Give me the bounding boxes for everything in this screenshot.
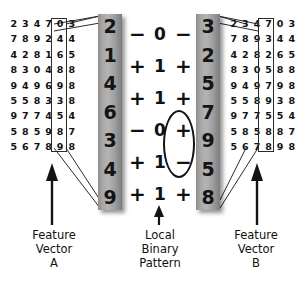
pixel-a-cell: 7	[20, 111, 32, 121]
pixel-b-cell: 0	[274, 19, 286, 29]
pixel-a-row: 977454	[8, 108, 89, 123]
pixel-b-cell: 8	[228, 65, 240, 75]
pixel-a-cell: 4	[31, 19, 43, 29]
pixel-a-cell: 3	[20, 65, 32, 75]
feature-vector-a-value: 6	[103, 103, 116, 122]
pixel-b-cell: 8	[286, 81, 298, 91]
caption-local-binary-pattern: Local Binary Pattern	[124, 228, 196, 270]
pixel-a-cell: 7	[66, 127, 78, 137]
pixel-a-cell: 5	[66, 50, 78, 60]
pixel-b-cell: 7	[228, 34, 240, 44]
pixel-a-row: 428165	[8, 47, 89, 62]
pixel-b-cell: 3	[240, 19, 252, 29]
pixel-b-cell: 4	[286, 34, 298, 44]
pixel-b-cell: 4	[274, 34, 286, 44]
lbp-left-sign: +	[129, 152, 145, 172]
pixel-b-cell: 5	[274, 111, 286, 121]
pixel-a-cell: 8	[31, 96, 43, 106]
figure-canvas: 2347037892444281658304889496985583389774…	[0, 0, 305, 290]
feature-vector-a-value: 3	[103, 131, 116, 150]
lbp-left-sign: +	[129, 88, 145, 108]
pixel-a-cell: 2	[8, 19, 20, 29]
pixel-a-row: 830488	[8, 62, 89, 77]
lbp-bit: 0	[152, 26, 168, 43]
pixel-a-cell: 8	[8, 65, 20, 75]
pixel-b-cell: 6	[240, 142, 252, 152]
pixel-b-cell: 5	[228, 96, 240, 106]
pixel-b-cell: 5	[286, 50, 298, 60]
lbp-bit: 1	[152, 58, 168, 75]
lbp-bit: 1	[152, 90, 168, 107]
selected-column-box-a	[51, 18, 67, 152]
pixel-a-cell: 9	[8, 81, 20, 91]
caption-feature-vector-a: Feature Vector A	[12, 228, 96, 270]
pixel-b-cell: 4	[240, 81, 252, 91]
pixel-a-cell: 8	[66, 65, 78, 75]
lbp-row: +1+	[126, 88, 194, 108]
pixel-a-cell: 8	[31, 50, 43, 60]
lbp-left-sign: +	[129, 184, 145, 204]
pixel-a-cell: 8	[66, 142, 78, 152]
pixel-a-cell: 0	[31, 65, 43, 75]
pixel-a-cell: 7	[8, 34, 20, 44]
feature-vector-b-value: 9	[201, 131, 214, 150]
pixel-a-row: 789244	[8, 31, 89, 46]
lbp-row: +1+	[126, 184, 194, 204]
pixel-a-cell: 4	[20, 81, 32, 91]
pixel-b-cell: 3	[286, 19, 298, 29]
pixel-b-cell: 8	[274, 127, 286, 137]
pixel-b-cell: 8	[240, 34, 252, 44]
pixel-b-cell: 8	[274, 65, 286, 75]
pixel-a-cell: 3	[66, 19, 78, 29]
pixel-b-cell: 6	[274, 50, 286, 60]
lbp-right-sign: +	[175, 184, 191, 204]
caption-feature-vector-b: Feature Vector B	[214, 228, 298, 270]
lbp-left-sign: +	[129, 56, 145, 76]
pixel-a-cell: 8	[66, 81, 78, 91]
pixel-a-cell: 5	[31, 127, 43, 137]
lbp-right-sign: +	[175, 56, 191, 76]
lbp-row: +1+	[126, 56, 194, 76]
pixel-b-cell: 9	[228, 111, 240, 121]
lbp-right-sign: −	[175, 24, 191, 44]
arrow-up-feature-vector-b	[249, 163, 265, 225]
feature-vector-b-value: 3	[201, 17, 214, 36]
pixel-a-cell: 5	[8, 142, 20, 152]
pixel-a-cell: 6	[20, 142, 32, 152]
pixel-b-cell: 5	[228, 127, 240, 137]
pixel-b-cell: 2	[228, 19, 240, 29]
pixel-grid-a: 2347037892444281658304889496985583389774…	[8, 16, 89, 155]
lbp-left-sign: −	[129, 24, 145, 44]
pixel-a-cell: 4	[8, 50, 20, 60]
feature-vector-a-value: 1	[103, 46, 116, 65]
pixel-a-row: 949698	[8, 78, 89, 93]
pixel-b-cell: 4	[228, 50, 240, 60]
lbp-right-sign: +	[175, 88, 191, 108]
pixel-a-cell: 3	[20, 19, 32, 29]
feature-vector-a-value: 2	[103, 17, 116, 36]
mismatch-highlight-ellipse	[163, 110, 195, 178]
feature-vector-b-value: 8	[201, 188, 214, 207]
pixel-a-row: 585987	[8, 124, 89, 139]
pixel-b-cell: 9	[228, 81, 240, 91]
lbp-bit: 1	[152, 186, 168, 203]
pixel-a-cell: 7	[31, 111, 43, 121]
pixel-a-row: 558338	[8, 93, 89, 108]
pixel-b-cell: 8	[240, 127, 252, 137]
pixel-a-row: 234703	[8, 16, 89, 31]
feature-vector-a-bar: 2146349	[98, 14, 122, 210]
pixel-a-cell: 9	[31, 34, 43, 44]
pixel-a-cell: 5	[20, 96, 32, 106]
feature-vector-a-value: 9	[103, 188, 116, 207]
pixel-a-row: 567898	[8, 139, 89, 154]
feature-vector-b-value: 5	[201, 160, 214, 179]
pixel-b-cell: 3	[240, 65, 252, 75]
pixel-b-cell: 5	[228, 142, 240, 152]
feature-vector-b-value: 7	[201, 103, 214, 122]
lbp-left-sign: −	[129, 120, 145, 140]
pixel-b-cell: 5	[240, 96, 252, 106]
pixel-b-cell: 9	[274, 81, 286, 91]
feature-vector-b-bar: 3257958	[196, 14, 220, 210]
pixel-b-cell: 7	[286, 127, 298, 137]
pixel-b-cell: 8	[286, 96, 298, 106]
